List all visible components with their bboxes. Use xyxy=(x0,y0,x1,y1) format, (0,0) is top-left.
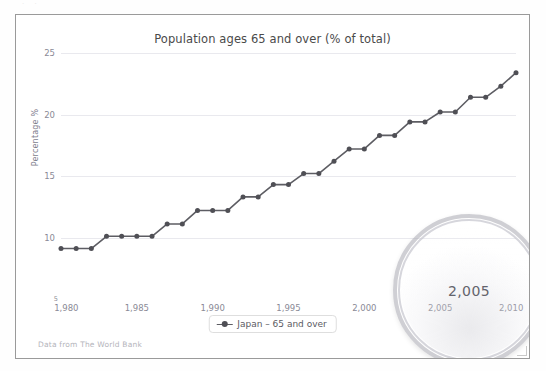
plot-area: 252015105 1,9801,9851,9901,9952,0002,005… xyxy=(61,53,516,299)
data-point xyxy=(514,70,519,75)
data-point xyxy=(89,246,94,251)
data-point xyxy=(286,182,291,187)
data-point xyxy=(271,182,276,187)
x-tick-label: 1,990 xyxy=(200,303,224,313)
data-point xyxy=(377,133,382,138)
source-note: Data from The World Bank xyxy=(38,340,142,349)
series-line-japan xyxy=(61,53,516,299)
top-artifact-text: · · xyxy=(22,0,522,12)
data-point xyxy=(241,194,246,199)
data-point xyxy=(362,146,367,151)
y-tick-label: 10 xyxy=(44,233,55,243)
data-point xyxy=(392,133,397,138)
x-tick-label: 2,010 xyxy=(499,303,523,313)
y-tick-label: 20 xyxy=(44,110,55,120)
data-point xyxy=(210,208,215,213)
data-point xyxy=(332,159,337,164)
data-point xyxy=(438,110,443,115)
chart-title: Population ages 65 and over (% of total) xyxy=(16,32,529,46)
data-point xyxy=(316,171,321,176)
data-point xyxy=(347,146,352,151)
x-tick-label: 1,995 xyxy=(276,303,300,313)
data-point xyxy=(483,95,488,100)
data-point xyxy=(165,221,170,226)
data-point xyxy=(453,110,458,115)
line-marker-icon xyxy=(216,320,232,328)
data-point xyxy=(225,208,230,213)
data-point xyxy=(468,95,473,100)
y-tick-label: 25 xyxy=(44,48,55,58)
screenshot-page: · · Population ages 65 and over (% of to… xyxy=(0,0,546,371)
y-axis-title: Percentage % xyxy=(31,93,40,183)
y-tick-label: 5 xyxy=(54,295,58,303)
data-point xyxy=(150,234,155,239)
data-point xyxy=(301,171,306,176)
y-tick-label: 15 xyxy=(44,171,55,181)
chart-legend[interactable]: Japan – 65 and over xyxy=(208,315,337,333)
data-point xyxy=(498,84,503,89)
data-point xyxy=(407,119,412,124)
data-point xyxy=(256,194,261,199)
legend-label: Japan – 65 and over xyxy=(237,319,327,329)
x-tick-label: 1,985 xyxy=(125,303,149,313)
data-point xyxy=(195,208,200,213)
x-tick-label: 1,980 xyxy=(54,303,78,313)
data-point xyxy=(180,221,185,226)
data-point xyxy=(59,246,64,251)
data-point xyxy=(104,234,109,239)
data-point xyxy=(423,119,428,124)
x-tick-label: 2,000 xyxy=(352,303,376,313)
data-point xyxy=(134,234,139,239)
corner-mark xyxy=(517,346,527,356)
chart-frame: Population ages 65 and over (% of total)… xyxy=(15,14,530,359)
data-point xyxy=(74,246,79,251)
x-tick-label: 2,005 xyxy=(428,303,452,313)
data-point xyxy=(119,234,124,239)
